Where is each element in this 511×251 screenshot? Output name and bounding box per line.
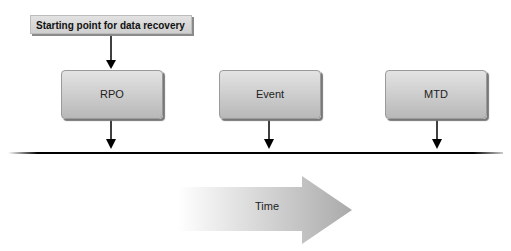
- mtd-box: MTD: [385, 70, 487, 119]
- diagram-graphics: [0, 0, 511, 251]
- event-box: Event: [219, 70, 321, 119]
- time-label: Time: [255, 200, 279, 212]
- start-point-label: Starting point for data recovery: [30, 15, 192, 34]
- timeline: [8, 152, 503, 154]
- rpo-box: RPO: [61, 70, 163, 119]
